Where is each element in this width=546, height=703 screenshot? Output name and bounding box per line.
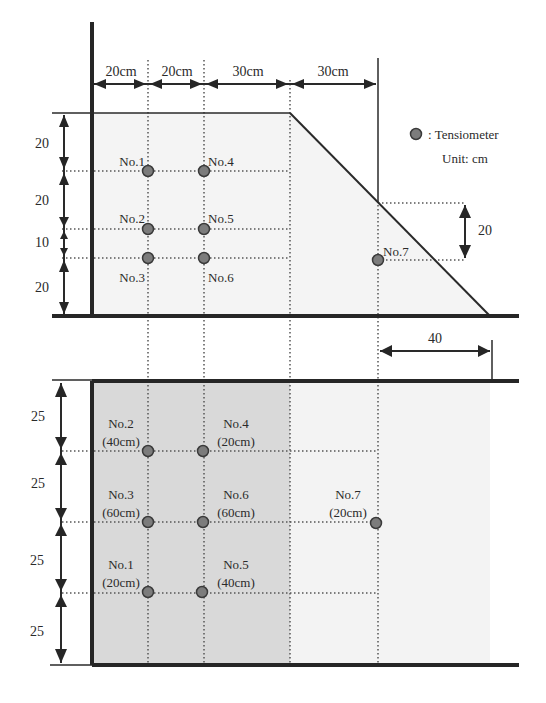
dim-right: 20 [478,223,492,238]
plan-dim-3: 25 [30,553,44,568]
plan-depth-no3: (60cm) [102,505,140,520]
label-no5: No.5 [208,211,234,226]
plan-dim-1: 25 [31,409,45,424]
legend-unit-label: Unit: cm [442,151,488,166]
plan-depth-no2: (40cm) [102,434,140,449]
plan-sensor-no1 [143,587,154,598]
plan-sensor-no6 [198,517,209,528]
tensiometer-layout-diagram: 20cm 20cm 30cm 30cm 20 20 10 20 20 [0,0,546,703]
plan-sensor-no4 [198,446,209,457]
label-no1: No.1 [119,154,145,169]
plan-dim-2: 25 [31,476,45,491]
top-dimension-arrows [94,79,376,89]
legend-sensor-label: : Tensiometer [428,127,499,142]
left-dimension-arrows [59,115,69,314]
plan-left-dimension-arrows [55,383,67,663]
dim-bottom: 40 [428,331,442,346]
plan-light-region [290,381,490,665]
plan-depth-no6: (60cm) [217,505,255,520]
legend: : Tensiometer Unit: cm [411,127,500,166]
plan-sensor-no5 [197,587,208,598]
dim-left-1: 20 [35,136,49,151]
dim-top-1: 20cm [105,64,136,79]
label-no7: No.7 [383,244,409,259]
dim-top-3: 30cm [232,64,263,79]
bottom-dimension-arrow [380,340,492,381]
plan-label-no7: No.7 [335,487,361,502]
label-no2: No.2 [119,211,145,226]
plan-dim-4: 25 [30,624,44,639]
plan-sensor-no7 [371,518,382,529]
label-no6: No.6 [208,270,234,285]
plan-label-no3: No.3 [108,487,134,502]
plan-label-no4: No.4 [223,416,249,431]
dim-top-4: 30cm [317,64,348,79]
dim-left-2: 20 [35,193,49,208]
dim-top-2: 20cm [161,64,192,79]
plan-label-no1: No.1 [108,557,134,572]
plan-label-no2: No.2 [108,416,134,431]
plan-depth-no5: (40cm) [217,575,255,590]
plan-label-no5: No.5 [223,557,249,572]
label-no3: No.3 [119,270,145,285]
plan-view: 25 25 25 25 No.2 (40cm) No.4 (20cm) No.3… [30,380,519,665]
dim-left-3: 10 [35,235,49,250]
right-dimension-arrow [459,205,471,258]
label-no4: No.4 [208,154,234,169]
soil-body [92,113,490,316]
legend-sensor-icon [411,129,422,140]
sensor-no3 [143,253,154,264]
plan-label-no6: No.6 [223,487,249,502]
sensor-no7 [373,255,384,266]
plan-sensor-no2 [143,446,154,457]
plan-depth-no7: (20cm) [329,505,367,520]
plan-depth-no1: (20cm) [102,575,140,590]
dim-left-4: 20 [35,280,49,295]
plan-sensor-no3 [143,517,154,528]
sensor-no6 [199,253,210,264]
plan-depth-no4: (20cm) [217,434,255,449]
